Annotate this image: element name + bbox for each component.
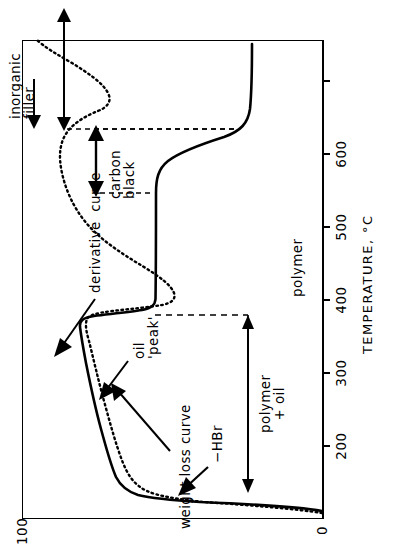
plot-area bbox=[0, 0, 399, 559]
annotation-weight-loss-curve: weight loss curve bbox=[178, 404, 192, 529]
annotation-carbon-black: carbon black bbox=[108, 150, 136, 199]
x-tick-200 bbox=[322, 445, 330, 447]
x-tick-label-600: 600 bbox=[333, 140, 349, 167]
x-tick-label-200: 200 bbox=[333, 432, 349, 459]
annotation-oil-peak: oil 'peak' bbox=[132, 316, 160, 359]
x-tick-label-400: 400 bbox=[333, 286, 349, 313]
x-tick-600 bbox=[322, 153, 330, 155]
annotation-derivative-curve: derivative curve bbox=[88, 172, 102, 293]
inorganic-filler-span-arrow bbox=[57, 8, 71, 131]
annotation-inorganic-filler: inorganic filler bbox=[8, 53, 36, 119]
y-axis-min-label: 0 bbox=[314, 526, 330, 535]
derivative-leader bbox=[54, 299, 95, 357]
x-tick-700 bbox=[322, 80, 330, 82]
x-axis-label: TEMPERATURE, °C bbox=[360, 215, 375, 354]
annotation-hbr: −HBr bbox=[210, 425, 224, 463]
x-tick-500 bbox=[322, 226, 330, 228]
figure-canvas: 200 300 400 500 600 TEMPERATURE, °C 100 … bbox=[0, 0, 399, 559]
rotated-figure-wrapper: 200 300 400 500 600 TEMPERATURE, °C 100 … bbox=[0, 0, 399, 559]
weight-loss-curve bbox=[80, 44, 322, 511]
x-tick-300 bbox=[322, 372, 330, 374]
weight-loss-leader bbox=[111, 383, 170, 451]
annotation-polymer: polymer bbox=[290, 239, 304, 297]
x-tick-label-300: 300 bbox=[333, 359, 349, 386]
y-axis-max-label: 100 bbox=[14, 518, 30, 545]
annotation-polymer-plus-oil: polymer + oil bbox=[258, 375, 286, 433]
polymer-oil-span-arrow bbox=[242, 315, 254, 493]
x-tick-400 bbox=[322, 299, 330, 301]
x-tick-label-500: 500 bbox=[333, 213, 349, 240]
